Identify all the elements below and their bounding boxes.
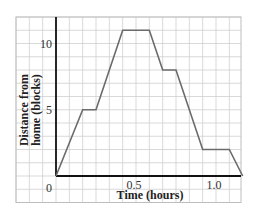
y-tick-label-5: 5 (46, 103, 52, 117)
y-axis-title-line2: home (blocks) (29, 74, 43, 146)
x-tick-label-1-0: 1.0 (207, 178, 222, 192)
x-axis-title: Time (hours) (117, 188, 184, 202)
y-axis-title: Distance from home (blocks) (17, 74, 43, 146)
distance-time-chart: 0 5 10 0.5 1.0 Time (hours) Distance fro… (0, 0, 255, 211)
origin-label: 0 (46, 181, 52, 195)
y-tick-label-10: 10 (40, 37, 52, 51)
